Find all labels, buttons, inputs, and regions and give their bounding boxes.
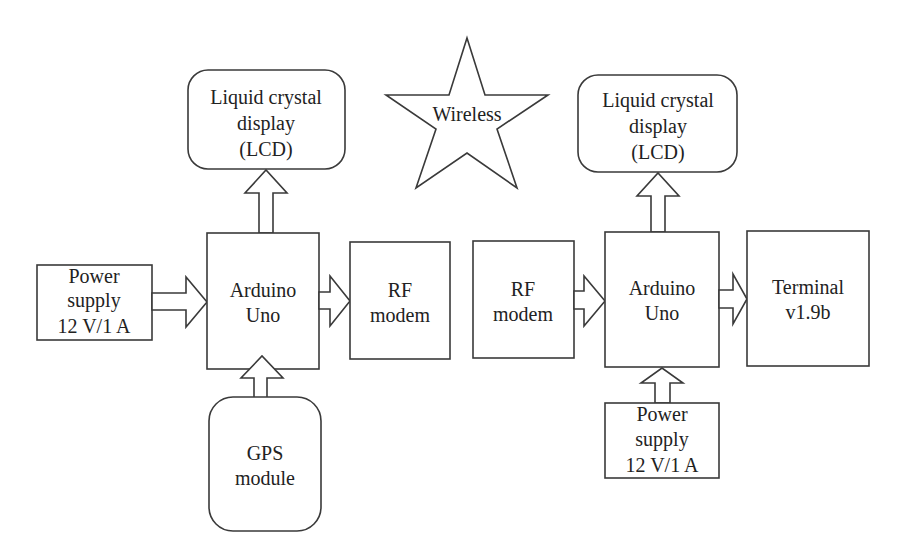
right-lcd-label-line1: Liquid crystal <box>602 89 714 112</box>
right-rf-modem-block: RF modem <box>473 241 574 358</box>
left-lcd-label-line1: Liquid crystal <box>210 86 322 109</box>
right-power-supply-block: Power supply 12 V/1 A <box>605 403 719 478</box>
right-lcd-block: Liquid crystal display (LCD) <box>578 75 737 172</box>
right-lcd-label-line2: display <box>629 115 687 138</box>
left-arduino-label-line2: Uno <box>246 304 280 326</box>
left-rf-label-line1: RF <box>388 279 412 301</box>
right-power-label-line2: supply <box>635 428 688 451</box>
left-arduino-to-rf-arrow <box>319 276 350 326</box>
right-terminal-block: Terminal v1.9b <box>747 231 869 366</box>
right-power-to-arduino-arrow <box>641 368 683 403</box>
left-power-to-arduino-arrow <box>152 277 207 327</box>
left-power-label-line2: supply <box>67 289 120 312</box>
left-power-label-line1: Power <box>68 265 119 287</box>
terminal-label-line1: Terminal <box>772 276 844 298</box>
left-gps-module-block: GPS module <box>209 397 321 531</box>
left-arduino-label-line1: Arduino <box>230 279 297 301</box>
left-arduino-block: Arduino Uno <box>207 233 319 369</box>
right-arduino-label-line1: Arduino <box>629 277 696 299</box>
right-power-label-line1: Power <box>636 403 687 425</box>
right-rf-to-arduino-arrow <box>574 276 605 326</box>
terminal-label-line2: v1.9b <box>786 301 831 323</box>
right-rf-label-line1: RF <box>511 278 535 300</box>
right-arduino-label-line2: Uno <box>645 302 679 324</box>
right-arduino-to-lcd-arrow <box>637 173 679 232</box>
wireless-label: Wireless <box>432 103 501 125</box>
right-arduino-to-terminal-arrow <box>719 274 747 324</box>
right-arduino-block: Arduino Uno <box>605 232 719 367</box>
left-power-label-line3: 12 V/1 A <box>58 315 132 337</box>
right-power-label-line3: 12 V/1 A <box>626 454 700 476</box>
wireless-star: Wireless <box>386 38 548 188</box>
left-power-supply-block: Power supply 12 V/1 A <box>37 265 152 340</box>
block-diagram: Liquid crystal display (LCD) Power suppl… <box>0 0 905 557</box>
left-lcd-block: Liquid crystal display (LCD) <box>188 70 345 169</box>
left-arduino-to-lcd-arrow <box>245 170 287 233</box>
left-lcd-label-line2: display <box>237 112 295 135</box>
left-lcd-label-line3: (LCD) <box>239 138 292 161</box>
left-gps-label-line2: module <box>235 467 295 489</box>
left-gps-label-line1: GPS <box>247 442 284 464</box>
left-rf-label-line2: modem <box>370 304 430 326</box>
left-rf-modem-block: RF modem <box>350 242 450 359</box>
right-rf-label-line2: modem <box>493 303 553 325</box>
right-lcd-label-line3: (LCD) <box>631 141 684 164</box>
